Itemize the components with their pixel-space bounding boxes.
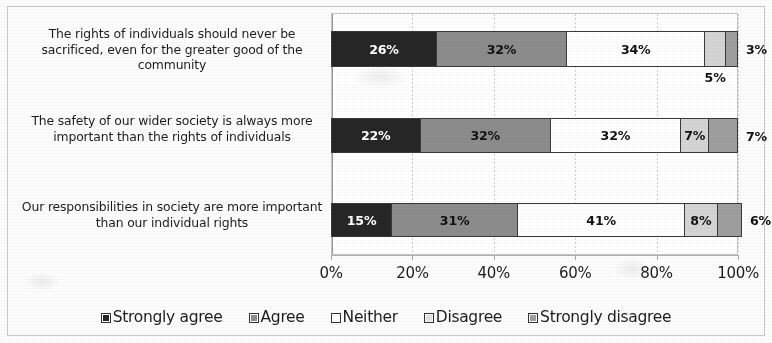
bar-segment-strongly-agree: 22%	[331, 118, 421, 153]
legend-item-label: Strongly disagree	[540, 308, 671, 326]
x-tick-label-40: 40%	[459, 264, 529, 282]
bar-segment-neither: 34%	[566, 31, 705, 67]
bar-segment-disagree: 5%	[704, 31, 725, 67]
segment-value-label: 41%	[586, 213, 616, 228]
bar-segment-strongly-disagree: 3%	[725, 31, 738, 67]
legend-item-label: Strongly agree	[113, 308, 223, 326]
legend-swatch-neither	[331, 313, 341, 323]
legend-swatch-strongly-disagree	[528, 313, 538, 323]
x-tick-mark	[738, 255, 739, 260]
bar-segment-agree: 32%	[436, 31, 567, 67]
bar-segment-neither: 32%	[550, 118, 681, 153]
chart-legend: Strongly agreeAgreeNeitherDisagreeStrong…	[0, 308, 772, 326]
bar-row-3: 15%31%41%8%6%	[331, 203, 738, 237]
bar-segment-agree: 32%	[420, 118, 551, 153]
legend-item-label: Agree	[261, 308, 305, 326]
segment-value-label: 26%	[369, 42, 399, 57]
x-tick-label-20: 20%	[377, 264, 447, 282]
segment-value-label: 7%	[684, 128, 705, 143]
category-label-1: The rights of individuals should never b…	[16, 26, 328, 73]
segment-value-label: 32%	[470, 128, 500, 143]
stacked-bar-chart: The rights of individuals should never b…	[0, 0, 772, 343]
legend-swatch-strongly-agree	[101, 313, 111, 323]
legend-swatch-agree	[249, 313, 259, 323]
x-tick-mark	[494, 255, 495, 260]
x-tick-mark	[331, 255, 332, 260]
bar-row-1: 26%32%34%5%3%	[331, 31, 738, 67]
segment-value-label: 22%	[361, 128, 391, 143]
bar-segment-strongly-agree: 15%	[331, 203, 392, 237]
legend-item-label: Neither	[343, 308, 398, 326]
x-tick-mark	[575, 255, 576, 260]
legend-swatch-disagree	[424, 313, 434, 323]
segment-value-label-outside: 7%	[746, 128, 767, 143]
bar-segment-disagree: 7%	[680, 118, 709, 153]
bar-segment-neither: 41%	[517, 203, 685, 237]
segment-value-label-outside: 6%	[750, 213, 771, 228]
x-tick-mark	[657, 255, 658, 260]
bar-segment-strongly-disagree: 6%	[717, 203, 742, 237]
segment-value-label: 32%	[487, 42, 517, 57]
bar-segment-agree: 31%	[391, 203, 518, 237]
x-tick-label-0: 0%	[296, 264, 366, 282]
segment-value-label: 31%	[440, 213, 470, 228]
legend-item-neither[interactable]: Neither	[331, 308, 398, 326]
segment-value-label: 15%	[347, 213, 377, 228]
segment-value-label-below: 5%	[705, 70, 726, 85]
bar-segment-disagree: 8%	[684, 203, 718, 237]
segment-value-label: 8%	[690, 213, 711, 228]
category-label-column: The rights of individuals should never b…	[16, 13, 328, 255]
segment-value-label: 32%	[601, 128, 631, 143]
segment-value-label: 34%	[621, 42, 651, 57]
x-tick-label-60: 60%	[540, 264, 610, 282]
legend-item-strongly-agree[interactable]: Strongly agree	[101, 308, 223, 326]
x-tick-mark	[412, 255, 413, 260]
legend-item-agree[interactable]: Agree	[249, 308, 305, 326]
bar-segment-strongly-disagree: 7%	[708, 118, 737, 153]
category-label-2: The safety of our wider society is alway…	[16, 113, 328, 144]
category-axis-line	[331, 255, 739, 256]
x-tick-label-80: 80%	[622, 264, 692, 282]
legend-item-label: Disagree	[436, 308, 502, 326]
bar-row-2: 22%32%32%7%7%	[331, 118, 738, 153]
x-tick-label-100: 100%	[703, 264, 772, 282]
bar-segment-strongly-agree: 26%	[331, 31, 437, 67]
legend-item-strongly-disagree[interactable]: Strongly disagree	[528, 308, 671, 326]
legend-item-disagree[interactable]: Disagree	[424, 308, 502, 326]
category-label-3: Our responsibilities in society are more…	[16, 199, 328, 230]
segment-value-label-outside: 3%	[746, 42, 767, 57]
